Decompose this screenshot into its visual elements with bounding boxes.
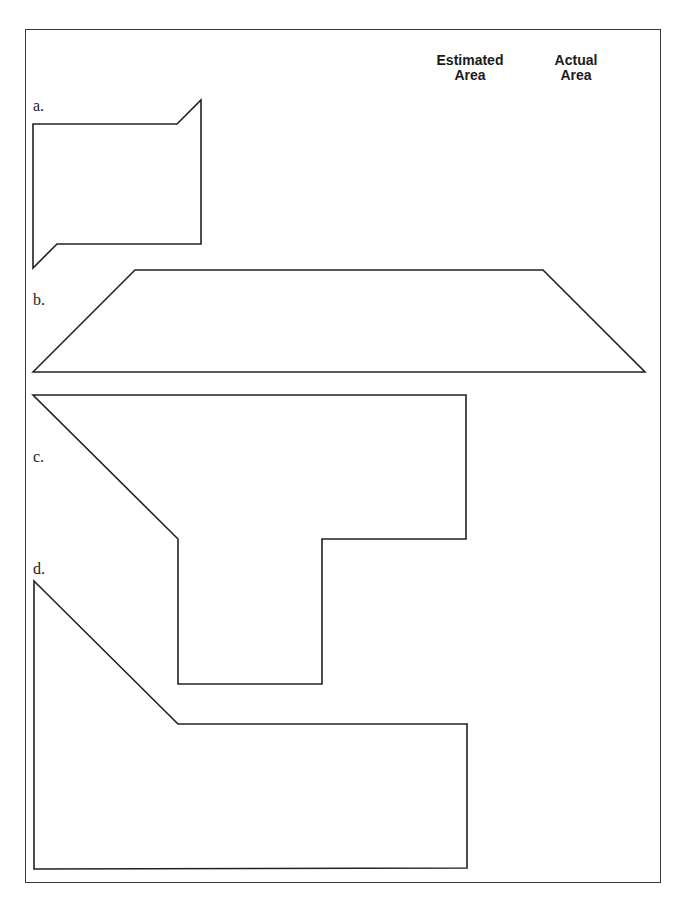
shape-d xyxy=(34,581,467,869)
shape-b xyxy=(33,270,645,372)
shape-c xyxy=(33,395,466,684)
shape-a xyxy=(33,100,201,268)
shapes-canvas xyxy=(0,0,688,906)
